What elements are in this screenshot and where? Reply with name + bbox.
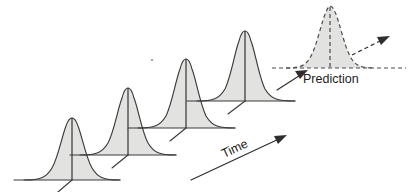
distribution-curve-2 <box>70 88 176 155</box>
trend-arrow-shaft <box>352 40 382 55</box>
prediction-label: Prediction <box>303 72 359 86</box>
scan-speck-artifact <box>151 59 153 61</box>
distribution-curve-3 <box>128 59 235 128</box>
baseline-connector-4 <box>228 101 245 114</box>
baseline-connector-2 <box>112 155 128 168</box>
trend-arrow <box>352 36 390 55</box>
trend-arrow-head <box>377 36 390 45</box>
diagram-canvas: Time Prediction <box>0 0 419 192</box>
distribution-curve-4-fill <box>197 31 295 101</box>
forecast-distribution-diagram: Time Prediction <box>0 0 419 192</box>
baseline-connector-1 <box>58 180 72 192</box>
distribution-curve-4 <box>187 31 295 101</box>
baseline-connector-3 <box>170 128 186 141</box>
forecast-arrow-shaft <box>277 74 302 90</box>
time-label: Time <box>219 136 250 160</box>
time-arrow-head <box>274 135 287 144</box>
